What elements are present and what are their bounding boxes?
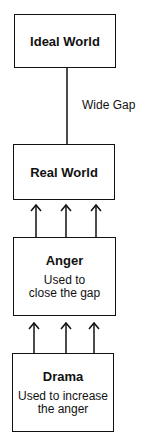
arrow-up-icon [91, 205, 101, 237]
real-world-box: Real World [13, 144, 115, 200]
ideal-world-box: Ideal World [14, 14, 116, 68]
arrow-up-icon [61, 323, 71, 354]
box-subtitle: Used to close the gap [29, 274, 100, 300]
box-title: Drama [43, 369, 83, 384]
arrow-up-icon [89, 323, 99, 354]
box-subtitle: Used to increase the anger [18, 390, 108, 416]
subtitle-line: the anger [18, 403, 108, 416]
arrow-up-icon [31, 205, 41, 237]
anger-box: Anger Used to close the gap [13, 237, 116, 316]
box-title: Real World [30, 165, 98, 180]
drama-box: Drama Used to increase the anger [12, 353, 114, 432]
box-title: Ideal World [30, 34, 100, 49]
subtitle-line: close the gap [29, 287, 100, 300]
arrow-up-icon [29, 323, 39, 354]
gap-label: Wide Gap [82, 98, 135, 112]
box-title: Anger [46, 253, 84, 268]
arrow-up-icon [61, 205, 71, 237]
